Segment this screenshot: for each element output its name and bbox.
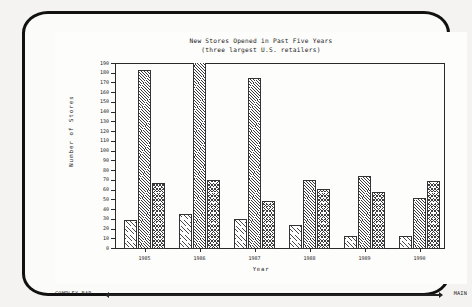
bar xyxy=(193,63,206,249)
y-tick-label: 80 xyxy=(103,168,109,173)
x-tick-label: 1987 xyxy=(235,255,275,261)
status-rule xyxy=(109,294,439,296)
bar xyxy=(413,198,426,249)
y-tick-label: 150 xyxy=(100,99,109,104)
status-left-label: COMPLEX BAR xyxy=(55,290,92,296)
x-tick xyxy=(200,248,201,252)
bar xyxy=(124,220,137,249)
y-tick-label: 160 xyxy=(100,90,109,95)
x-tick-label: 1985 xyxy=(125,255,165,261)
x-tick xyxy=(365,248,366,252)
y-tick-label: 30 xyxy=(103,216,109,221)
bar xyxy=(234,219,247,249)
chart-title: New Stores Opened in Past Five Years xyxy=(55,36,467,45)
status-bar: COMPLEX BAR MAIN xyxy=(55,288,467,300)
y-tick-label: 190 xyxy=(100,61,109,66)
bar xyxy=(303,180,316,249)
bar xyxy=(317,189,330,249)
bar xyxy=(399,236,412,249)
y-tick-label: 170 xyxy=(100,80,109,85)
x-tick xyxy=(310,248,311,252)
bar xyxy=(344,236,357,249)
y-tick-label: 130 xyxy=(100,119,109,124)
y-tick-label: 0 xyxy=(106,246,109,251)
y-tick-label: 70 xyxy=(103,177,109,182)
y-tick-label: 100 xyxy=(100,148,109,153)
chart-subtitle: (three largest U.S. retailers) xyxy=(55,45,467,54)
y-tick-label: 120 xyxy=(100,129,109,134)
y-tick-label: 40 xyxy=(103,207,109,212)
crt-screenshot: New Stores Opened in Past Five Years (th… xyxy=(0,0,472,307)
crt-bezel: New Stores Opened in Past Five Years (th… xyxy=(22,11,450,296)
y-tick-label: 60 xyxy=(103,187,109,192)
bar xyxy=(427,181,440,249)
bar xyxy=(248,78,261,249)
x-tick-label: 1988 xyxy=(290,255,330,261)
bar xyxy=(138,70,151,249)
bar xyxy=(372,192,385,249)
y-tick-label: 180 xyxy=(100,70,109,75)
bar xyxy=(289,225,302,249)
status-right-label: MAIN xyxy=(454,290,467,296)
bar xyxy=(207,180,220,249)
bar xyxy=(152,183,165,249)
x-axis-title: Year xyxy=(55,266,467,272)
x-tick xyxy=(420,248,421,252)
bar xyxy=(179,214,192,249)
x-tick xyxy=(255,248,256,252)
y-tick-label: 20 xyxy=(103,226,109,231)
y-tick-label: 90 xyxy=(103,158,109,163)
y-tick-label: 50 xyxy=(103,197,109,202)
y-axis-labels: 0102030405060708090100110120130140150160… xyxy=(55,32,111,284)
bar xyxy=(262,201,275,249)
display-area: New Stores Opened in Past Five Years (th… xyxy=(55,32,467,284)
chart-panel: New Stores Opened in Past Five Years (th… xyxy=(55,32,467,284)
chart-title-block: New Stores Opened in Past Five Years (th… xyxy=(55,36,467,54)
y-tick-label: 140 xyxy=(100,109,109,114)
x-tick-label: 1989 xyxy=(345,255,385,261)
bar xyxy=(358,176,371,249)
x-tick-label: 1990 xyxy=(400,255,440,261)
y-tick-label: 110 xyxy=(100,138,109,143)
x-tick-label: 1986 xyxy=(180,255,220,261)
x-tick xyxy=(145,248,146,252)
y-tick-label: 10 xyxy=(103,236,109,241)
